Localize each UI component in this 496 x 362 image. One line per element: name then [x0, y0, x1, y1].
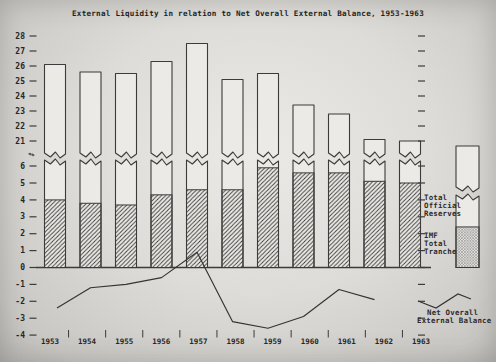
bar-upper-segment [364, 140, 385, 159]
bar-upper-segment [258, 74, 279, 159]
bar-hatched-segment [258, 168, 279, 268]
scanned-chart-page: External Liquidity in relation to Net Ov… [0, 0, 496, 362]
y-tick-label: 25 [15, 77, 25, 86]
x-tick-label: 1953 [41, 337, 60, 346]
bar-hatched-segment [187, 190, 208, 268]
y-tick-label: 22 [15, 122, 25, 131]
bar-upper-segment [45, 65, 66, 159]
bar-hatched-segment [151, 195, 172, 268]
chart-canvas: 28272625242322216543210-1-2-3-4%19531954… [0, 0, 496, 362]
bar-upper-segment [80, 72, 101, 158]
bar-upper-segment [222, 80, 243, 159]
bar-hatched-segment [222, 190, 243, 268]
legend-line: External Balance [417, 317, 491, 325]
bar-1962 [364, 140, 385, 268]
x-tick-label: 1956 [152, 337, 171, 346]
legend-imf-total-tranche: IMF Total Tranche [424, 232, 457, 257]
x-tick-label: 1961 [338, 337, 357, 346]
y-tick-label: 27 [15, 47, 25, 56]
y-tick-label: 24 [15, 92, 25, 101]
legend-line: Tranche [424, 248, 457, 256]
bar-hatched-segment [80, 203, 101, 267]
y-tick-label: 4 [20, 196, 25, 205]
x-axis: 1953195419551956195719581959196019611962… [41, 330, 431, 346]
bar-1961 [329, 114, 350, 268]
x-tick-label: 1954 [78, 337, 97, 346]
x-tick-label: 1957 [189, 337, 207, 346]
bars [45, 44, 421, 268]
bar-1954 [80, 72, 101, 268]
bar-hatched-segment [45, 200, 66, 268]
y-tick-label: -3 [15, 314, 25, 323]
bar-upper-segment [151, 62, 172, 159]
bar-hatched-segment [293, 173, 314, 268]
bar-hatched-segment [456, 227, 479, 268]
bar-hatched-segment [400, 183, 421, 268]
bar-1957 [187, 44, 208, 268]
x-tick-label: 1962 [375, 337, 393, 346]
bar-1953 [45, 65, 66, 268]
x-tick-label: 1959 [264, 337, 283, 346]
bar-hatched-segment [364, 181, 385, 267]
legend-net-overall-external-balance: Net Overall External Balance [417, 309, 491, 325]
bar-upper-segment [187, 44, 208, 159]
bar-1956 [151, 62, 172, 268]
bar-upper-segment [116, 74, 137, 159]
legend-line: Reserves [424, 210, 461, 218]
x-tick-label: 1958 [226, 337, 245, 346]
net-balance-line [57, 252, 375, 328]
bar-upper-segment [400, 141, 421, 158]
x-tick-label: 1955 [115, 337, 133, 346]
x-tick-label: 1960 [301, 337, 320, 346]
y-tick-label: 2 [20, 229, 25, 238]
y-tick-label: 28 [15, 32, 25, 41]
bar-upper-segment [456, 146, 479, 192]
bar-1960 [293, 105, 314, 268]
y-tick-label: 3 [20, 212, 25, 221]
y-tick-label: -4 [15, 331, 25, 340]
y-tick-label: -2 [15, 297, 25, 306]
y-tick-label: 0 [20, 263, 25, 272]
y-axis-unit-label: % [27, 149, 36, 159]
legend-sample-line [418, 294, 471, 308]
x-tick-label: 1963 [412, 337, 431, 346]
y-tick-label: -1 [15, 280, 25, 289]
bar-1959 [258, 74, 279, 268]
y-tick-label: 5 [20, 179, 25, 188]
bar-1958 [222, 80, 243, 268]
legend-total-official-reserves: Total Official Reserves [424, 194, 461, 219]
y-tick-label: 6 [20, 162, 25, 171]
bar-1955 [116, 74, 137, 268]
bar-upper-segment [293, 105, 314, 158]
y-tick-label: 26 [15, 62, 25, 71]
bar-1963 [400, 141, 421, 268]
y-tick-label: 21 [15, 137, 25, 146]
bar-upper-segment [329, 114, 350, 158]
legend-samples [418, 146, 479, 308]
y-tick-label: 23 [15, 107, 25, 116]
bar-hatched-segment [116, 205, 137, 268]
bar-hatched-segment [329, 173, 350, 268]
y-tick-label: 1 [20, 246, 25, 255]
